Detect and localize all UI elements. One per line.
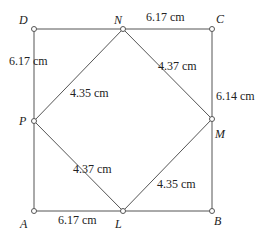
point-M xyxy=(210,117,215,122)
measure-PN: 4.35 cm xyxy=(70,86,109,100)
point-C xyxy=(210,27,215,32)
measure-LM: 4.35 cm xyxy=(157,177,196,191)
segment-PN xyxy=(34,29,123,121)
label-C: C xyxy=(216,12,225,26)
point-D xyxy=(32,27,37,32)
point-P xyxy=(32,119,37,124)
point-B xyxy=(210,209,215,214)
label-B: B xyxy=(214,214,222,228)
point-N xyxy=(121,27,126,32)
measure-NM: 4.37 cm xyxy=(158,59,197,73)
segment-ML xyxy=(123,119,212,211)
measure-NC: 6.17 cm xyxy=(146,10,185,24)
measure-DP: 6.17 cm xyxy=(9,54,48,68)
label-N: N xyxy=(113,13,123,27)
label-L: L xyxy=(114,217,122,231)
label-M: M xyxy=(214,127,226,141)
point-A xyxy=(32,209,37,214)
measure-CM: 6.14 cm xyxy=(216,89,255,103)
point-L xyxy=(121,209,126,214)
label-A: A xyxy=(19,217,28,231)
label-P: P xyxy=(18,114,27,128)
segment-NM xyxy=(123,29,212,119)
geometry-diagram: D N C P M A L B 6.17 cm 6.17 cm 6.14 cm … xyxy=(0,0,268,239)
measure-PL: 4.37 cm xyxy=(73,162,112,176)
label-D: D xyxy=(18,13,28,27)
measure-AL: 6.17 cm xyxy=(58,213,97,227)
